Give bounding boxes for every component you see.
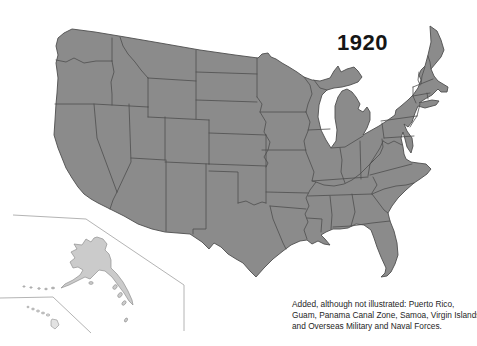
aleutian-islands xyxy=(23,282,93,290)
caption-line-3: and Overseas Military and Naval Forces. xyxy=(292,321,474,332)
us-territorial-map-1920 xyxy=(0,0,477,346)
alaska-inset-frame xyxy=(13,215,184,331)
caption-line-2: Guam, Panama Canal Zone, Samoa, Virgin I… xyxy=(292,310,474,321)
year-label: 1920 xyxy=(337,30,388,56)
mainland-landmass xyxy=(54,26,448,277)
mainland-map xyxy=(54,26,448,277)
hawaii-big-island xyxy=(51,319,59,329)
hawaii-island xyxy=(46,314,49,316)
hawaii-island xyxy=(41,312,44,314)
hawaii-island xyxy=(37,310,40,312)
hawaii-island xyxy=(27,306,29,308)
caption-line-1: Added, although not illustrated: Puerto … xyxy=(292,299,474,310)
hawaii-inset-map xyxy=(27,306,59,329)
map-figure: 1920 Added, although not illustrated: Pu… xyxy=(0,0,477,346)
hawaii-island xyxy=(32,308,35,310)
caption: Added, although not illustrated: Puerto … xyxy=(292,299,474,331)
hawaii-inset-frame xyxy=(0,297,91,333)
alaska-inset-map xyxy=(23,237,133,323)
